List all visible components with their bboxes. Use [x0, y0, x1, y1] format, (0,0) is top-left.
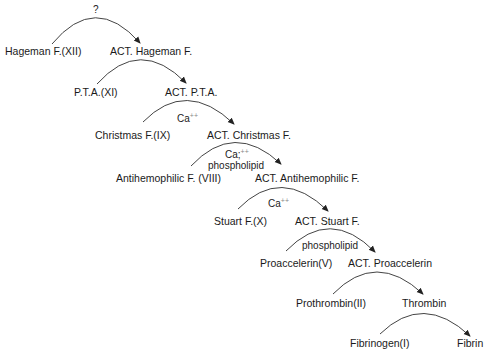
- from-label-fibrinogen: Fibrinogen(I): [350, 337, 410, 349]
- arrow-arc-8: [380, 313, 470, 336]
- coagulation-cascade-diagram: Hageman F.(XII) ACT. Hageman F. ? P.T.A.…: [0, 0, 493, 359]
- to-label-act-pta: ACT. P.T.A.: [165, 86, 217, 98]
- from-label-hageman: Hageman F.(XII): [5, 45, 81, 57]
- to-label-act-stuart: ACT. Stuart F.: [295, 215, 360, 227]
- catalyst-label-phospholipid: phospholipid: [208, 160, 264, 171]
- from-label-antihemophilic: Antihemophilic F. (VIII): [116, 172, 221, 184]
- catalyst-superscript: ++: [281, 197, 289, 204]
- catalyst-label-calcium: Ca++: [177, 110, 198, 124]
- catalyst-text: Ca;: [225, 149, 241, 160]
- catalyst-label-phospholipid: phospholipid: [302, 240, 358, 251]
- to-label-fibrin: Fibrin: [457, 337, 483, 349]
- from-label-christmas: Christmas F.(IX): [95, 129, 170, 141]
- to-label-thrombin: Thrombin: [402, 297, 446, 309]
- from-label-pta: P.T.A.(XI): [74, 86, 118, 98]
- catalyst-superscript: ++: [241, 148, 249, 155]
- to-label-act-christmas: ACT. Christmas F.: [207, 129, 291, 141]
- to-label-act-antihemophilic: ACT. Antihemophilic F.: [255, 172, 359, 184]
- from-label-proaccelerin: Proaccelerin(V): [260, 257, 332, 269]
- to-label-act-hageman: ACT. Hageman F.: [110, 45, 192, 57]
- catalyst-label-calcium: Ca++: [268, 195, 289, 209]
- from-label-stuart: Stuart F.(X): [214, 215, 267, 227]
- arrow-arc-1: [52, 18, 140, 44]
- catalyst-superscript: ++: [190, 112, 198, 119]
- arrow-arc-7: [333, 272, 423, 294]
- catalyst-label-unknown: ?: [93, 4, 99, 15]
- to-label-act-proaccelerin: ACT. Proaccelerin: [348, 257, 432, 269]
- from-label-prothrombin: Prothrombin(II): [296, 297, 366, 309]
- catalyst-text: Ca: [177, 113, 190, 124]
- arrow-arc-2: [97, 60, 186, 84]
- catalyst-text: Ca: [268, 198, 281, 209]
- catalyst-label-calcium: Ca;++: [225, 146, 249, 160]
